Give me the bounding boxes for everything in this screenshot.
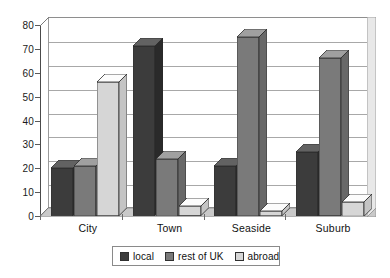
bar-shape: [342, 194, 372, 216]
legend-swatch-icon: [165, 252, 174, 261]
bar-shape: [97, 74, 127, 216]
bar-rest-of-uk-suburb: [319, 50, 349, 216]
legend-item-abroad[interactable]: abroad: [235, 251, 280, 262]
x-axis-tick-mark: [285, 214, 286, 220]
x-axis-tick-mark: [204, 214, 205, 220]
x-axis-label-town: Town: [157, 222, 182, 234]
bar-abroad-suburb: [342, 194, 372, 216]
bar-chart: 01020304050607080 CityTownSeasideSuburb …: [0, 0, 390, 278]
x-axis-labels: CityTownSeasideSuburb: [0, 222, 390, 238]
bar-shape: [319, 50, 349, 216]
legend-swatch-icon: [120, 252, 129, 261]
bar-abroad-city: [97, 74, 127, 216]
legend-item-rest-of-uk[interactable]: rest of UK: [165, 251, 223, 262]
legend-swatch-icon: [235, 252, 244, 261]
bar-rest-of-uk-seaside: [237, 29, 267, 216]
x-axis-tick-mark: [40, 214, 41, 220]
legend-label: rest of UK: [178, 251, 223, 262]
chart-legend: localrest of UKabroad: [112, 246, 280, 266]
legend-item-local[interactable]: local: [120, 251, 154, 262]
x-axis-label-city: City: [78, 222, 97, 234]
legend-label: local: [133, 251, 154, 262]
legend-label: abroad: [248, 251, 280, 262]
x-axis-label-seaside: Seaside: [232, 222, 271, 234]
bar-shape: [237, 29, 267, 216]
x-axis-label-suburb: Suburb: [316, 222, 351, 234]
x-axis-tick-mark: [122, 214, 123, 220]
